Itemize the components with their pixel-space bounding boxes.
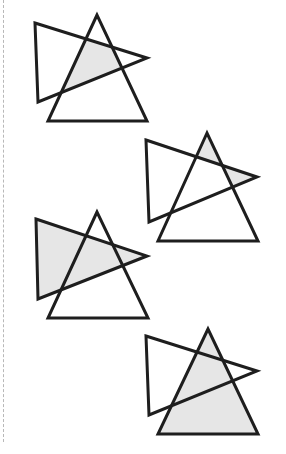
figure-4 [146,329,258,434]
figure-3 [36,212,148,318]
figure-3-shaded-sideways [36,219,147,299]
figures-canvas [0,0,286,454]
worksheet-page [0,0,286,454]
figure-2 [146,133,258,241]
figure-1 [35,15,147,121]
